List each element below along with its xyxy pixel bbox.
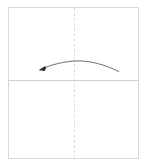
fold-diagram-canvas bbox=[0, 0, 148, 168]
vertical-fold-dashed-line bbox=[74, 8, 75, 158]
paper-square bbox=[8, 7, 139, 159]
